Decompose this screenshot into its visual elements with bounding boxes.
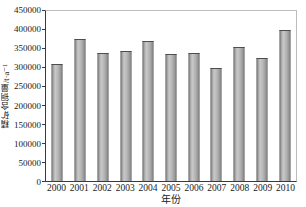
y-tick-label: 350000: [14, 44, 41, 53]
y-tick-label: 450000: [14, 6, 41, 15]
y-tick-mark: [42, 29, 45, 30]
bar-2001: [75, 39, 86, 181]
y-tick-label: 300000: [14, 63, 41, 72]
bar-2003: [120, 51, 131, 181]
bar-2007: [211, 68, 222, 181]
y-tick-label: 150000: [14, 120, 41, 129]
bar-2008: [234, 47, 245, 181]
bar-chart-figure: 精矿含铜量/t·a⁻¹ 0500001000001500002000002500…: [0, 0, 306, 207]
y-tick-label: 50000: [19, 158, 42, 167]
x-tick-label: 2006: [184, 184, 203, 194]
y-tick-label: 0: [37, 178, 42, 187]
x-axis-title: 年份: [45, 195, 297, 205]
y-tick-mark: [42, 181, 45, 182]
x-tick-label: 2009: [253, 184, 272, 194]
y-tick-label: 250000: [14, 82, 41, 91]
y-tick-mark: [42, 67, 45, 68]
y-tick-label: 200000: [14, 101, 41, 110]
y-tick-mark: [42, 10, 45, 11]
y-axis-tick-labels: 0500001000001500002000002500003000003500…: [0, 10, 41, 182]
bar-2010: [279, 30, 290, 181]
bar-2006: [188, 53, 199, 181]
bar-2004: [143, 41, 154, 181]
plot-area: [45, 10, 297, 182]
bar-2009: [256, 58, 267, 181]
y-tick-mark: [42, 124, 45, 125]
y-tick-label: 400000: [14, 25, 41, 34]
y-tick-mark: [42, 86, 45, 87]
x-tick-label: 2005: [162, 184, 181, 194]
bar-2000: [52, 64, 63, 181]
bar-2005: [166, 54, 177, 181]
y-tick-mark: [42, 105, 45, 106]
bar-2002: [97, 53, 108, 181]
y-tick-mark: [42, 162, 45, 163]
x-tick-label: 2001: [70, 184, 89, 194]
y-tick-mark: [42, 48, 45, 49]
x-tick-label: 2002: [93, 184, 112, 194]
x-tick-label: 2007: [207, 184, 226, 194]
y-tick-label: 100000: [14, 139, 41, 148]
x-tick-label: 2000: [47, 184, 66, 194]
x-tick-label: 2004: [139, 184, 158, 194]
x-tick-label: 2010: [276, 184, 295, 194]
y-tick-mark: [42, 143, 45, 144]
x-tick-label: 2003: [116, 184, 135, 194]
x-tick-label: 2008: [230, 184, 249, 194]
